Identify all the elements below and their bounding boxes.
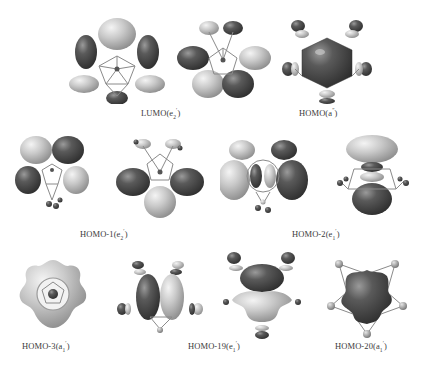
label-homo-20: HOMO-20(a1′): [335, 340, 387, 353]
figure-caption-cropped: [70, 364, 360, 371]
orbital-homo-19-left: [116, 255, 208, 335]
label-homo-19: HOMO-19(e1′): [188, 340, 240, 353]
label-homo-3: HOMO-3(a1′): [22, 340, 70, 353]
orbital-homo-1-left: [14, 134, 96, 216]
label-lumo: LUMO(e2′): [141, 107, 180, 120]
label-homo: HOMO(a″): [299, 107, 338, 118]
orbital-lumo-right: [175, 18, 290, 100]
orbital-homo-19-right: [218, 250, 308, 340]
orbital-homo-1-right: [115, 134, 207, 218]
orbital-homo-3: [16, 258, 90, 330]
orbital-homo-20: [325, 252, 409, 338]
label-homo-2: HOMO-2(e1′): [292, 228, 340, 241]
label-homo-1: HOMO-1(e2′): [80, 228, 128, 241]
orbital-homo-2-left: [220, 136, 310, 218]
orbital-homo: [280, 14, 375, 104]
orbital-lumo-left: [62, 14, 172, 104]
orbital-homo-2-right: [332, 133, 414, 219]
